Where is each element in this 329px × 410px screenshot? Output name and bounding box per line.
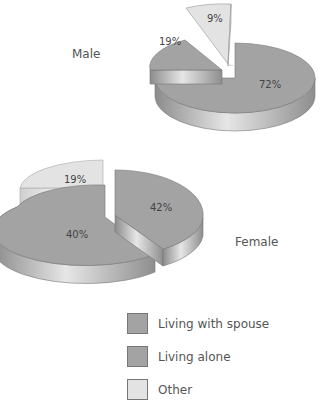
svg-text:40%: 40% <box>66 229 88 240</box>
male-pie <box>150 4 315 131</box>
svg-text:42%: 42% <box>150 202 172 213</box>
legend: Living with spouse Living alone Other <box>127 307 269 406</box>
legend-item-spouse: Living with spouse <box>127 307 269 340</box>
female-slice-other <box>20 160 103 188</box>
legend-swatch <box>127 313 148 334</box>
svg-text:19%: 19% <box>159 36 181 47</box>
svg-text:9%: 9% <box>207 13 223 24</box>
svg-text:72%: 72% <box>259 79 281 90</box>
legend-swatch <box>127 379 148 400</box>
svg-text:19%: 19% <box>64 174 86 185</box>
legend-swatch <box>127 346 148 367</box>
legend-item-other: Other <box>127 373 269 406</box>
female-pie <box>0 160 203 284</box>
legend-item-alone: Living alone <box>127 340 269 373</box>
